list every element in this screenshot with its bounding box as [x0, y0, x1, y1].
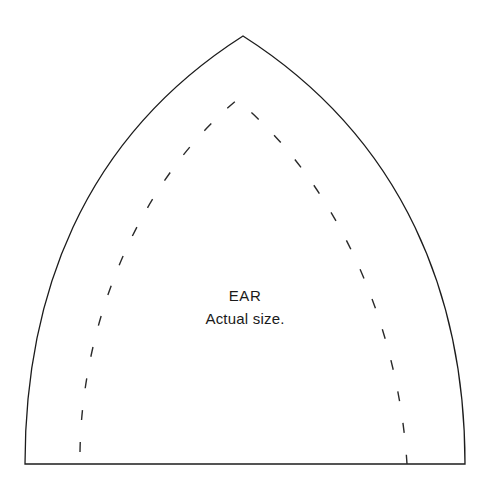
seam-allowance-path: [80, 100, 407, 464]
pattern-sheet: EAR Actual size.: [0, 0, 490, 493]
pattern-drawing: [0, 0, 490, 493]
